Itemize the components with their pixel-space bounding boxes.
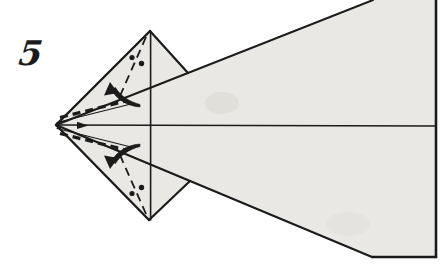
reference-dot bbox=[139, 61, 144, 66]
center-crease-line bbox=[56, 125, 436, 126]
reference-dot bbox=[129, 55, 134, 60]
paper-silhouette bbox=[56, 0, 436, 257]
scan-smudge bbox=[326, 212, 370, 236]
reference-dot bbox=[129, 191, 134, 196]
origami-step-diagram: 5 bbox=[0, 0, 446, 267]
origami-figure-canvas bbox=[0, 0, 446, 267]
scan-smudge bbox=[205, 92, 239, 114]
reference-dot bbox=[139, 185, 144, 190]
